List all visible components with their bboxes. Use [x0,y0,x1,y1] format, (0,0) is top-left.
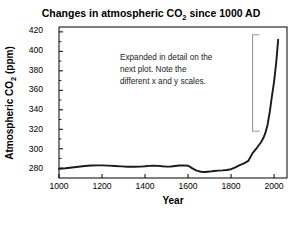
y-tick-label: 340 [29,104,44,114]
co2-chart-figure: Changes in atmospheric CO2 since 1000 AD… [0,0,305,226]
y-axis-title-after: (ppm) [4,46,15,77]
x-tick-label: 1200 [92,181,111,191]
x-tick-label: 1600 [178,181,197,191]
x-tick-label: 1000 [49,181,68,191]
y-tick-label: 300 [29,144,44,154]
y-tick-label: 400 [29,45,44,55]
x-axis-title: Year [162,195,183,206]
y-axis-title-before: Atmospheric CO [4,81,15,160]
figure-background [0,0,305,226]
y-tick-label: 280 [29,163,44,173]
x-tick-label: 2000 [264,181,283,191]
chart-title-before: Changes in atmospheric CO [42,7,183,19]
y-tick-label: 420 [29,25,44,35]
y-tick-label: 380 [29,65,44,75]
annotation-line: next plot. Note the [120,65,187,74]
annotation-line: Expanded in detail on the [120,53,213,62]
x-tick-label: 1400 [135,181,154,191]
y-tick-label: 360 [29,84,44,94]
x-tick-label: 1800 [221,181,240,191]
annotation-line: different x and y scales. [120,77,206,86]
y-tick-label: 320 [29,124,44,134]
chart-title-after: since 1000 AD [187,7,261,19]
